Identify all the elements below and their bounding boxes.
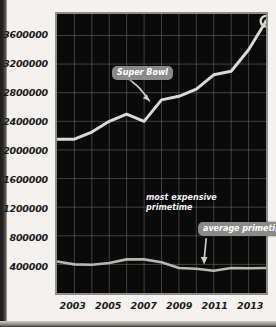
annotation-average-primetime: average primetime — [198, 222, 276, 236]
chart-figure: 4000008000001200000160000020000002400000… — [0, 0, 276, 327]
x-axis-tick: 2003 — [60, 300, 86, 311]
x-axis-tick-labels: 200320052007200920112013 — [0, 0, 276, 327]
x-axis-tick: 2007 — [131, 300, 157, 311]
x-axis-tick: 2005 — [95, 300, 121, 311]
annotation-super-bowl: Super Bowl — [112, 66, 173, 80]
x-axis-tick: 2011 — [202, 300, 228, 311]
annotation-most-expensive-primetime: most expensive primetime — [146, 193, 217, 212]
x-axis-tick: 2009 — [166, 300, 192, 311]
x-axis-tick: 2013 — [237, 300, 263, 311]
